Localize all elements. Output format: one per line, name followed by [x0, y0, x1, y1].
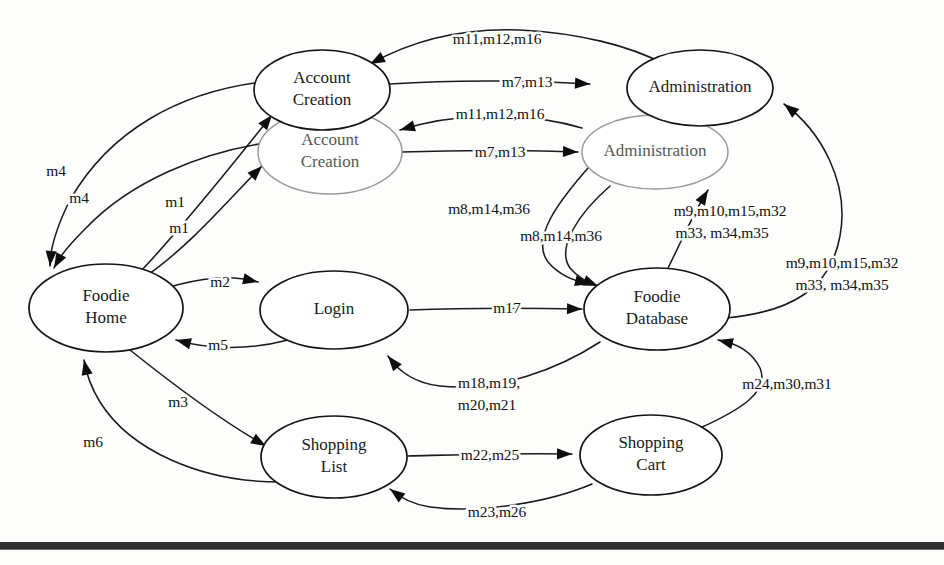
- bottom-rule: [0, 542, 944, 549]
- edge-label-e-ac-top-to-home-m4: m4: [46, 162, 66, 179]
- node-label-line1: Foodie: [82, 286, 129, 305]
- edge-e-list-to-home-m6: [84, 360, 280, 482]
- node-administration-top[interactable]: Administration: [627, 50, 773, 126]
- edge-label-e-home-to-ac-ghost-m1: m1: [169, 219, 189, 236]
- edge-label-e-list-to-cart-m22: m22,m25: [461, 446, 520, 463]
- arrowhead-e-admin-ghost-to-db-m8: [582, 275, 598, 286]
- node-label-line2: Creation: [301, 152, 360, 171]
- edge-label-e-home-to-ac-top-m1: m1: [165, 193, 185, 210]
- edge-label-e-login-to-home-m5: m5: [208, 336, 228, 353]
- edge-e-home-to-ac-ghost-m1: [146, 166, 262, 276]
- edge-label-e-admin-to-db-m8: m8,m14,m36: [448, 200, 530, 217]
- edge-label-e-ac-ghost-to-home-m4: m4: [69, 189, 89, 206]
- edge-label-e-db-to-login-m18-line2: m20,m21: [458, 396, 516, 413]
- node-label-line1: Administration: [649, 77, 752, 96]
- arrowhead-e-cart-to-list-m23: [390, 489, 405, 502]
- edge-label-e-ac-to-admin-top-return: m11,m12,m16: [453, 30, 542, 47]
- diagram-canvas: AccountCreationAdministrationAccountCrea…: [0, 0, 944, 565]
- edge-label-e-ac-ghost-to-admin-ghost: m7,m13: [475, 143, 526, 160]
- arrowhead-e-cart-to-db-m24: [718, 338, 734, 349]
- edge-label-e-list-to-home-m6: m6: [83, 433, 103, 450]
- node-label-line1: Login: [314, 299, 355, 318]
- edge-label-e-db-to-admin-ghost: m9,m10,m15,m32: [674, 202, 787, 219]
- edge-label-e-login-to-db-m17: m17: [493, 299, 521, 316]
- edge-label-e-db-to-admin-top: m9,m10,m15,m32: [786, 254, 899, 271]
- arrowhead-e-login-to-home-m5: [176, 338, 192, 349]
- arrowhead-e-ac-ghost-to-admin-ghost-return: [400, 120, 416, 131]
- arrowhead-e-list-to-cart-m22: [557, 448, 572, 459]
- arrowhead-e-ac-ghost-to-home-m4: [54, 252, 66, 268]
- node-account-creation-top[interactable]: AccountCreation: [254, 50, 390, 130]
- nodes-layer: AccountCreationAdministrationAccountCrea…: [29, 50, 773, 498]
- arrowhead-e-ac-to-admin-top: [575, 78, 590, 89]
- node-label-line2: Database: [626, 309, 688, 328]
- edge-label-e-admin-ghost-to-db-m8: m8,m14,m36: [520, 227, 602, 244]
- edge-label-e-db-to-login-m18: m18,m19,: [458, 374, 520, 391]
- node-label-line1: Shopping: [618, 433, 684, 452]
- edge-label-e-db-to-admin-ghost-line2: m33, m34,m35: [675, 224, 768, 241]
- edge-label-e-db-to-admin-top-line2: m33, m34,m35: [795, 276, 888, 293]
- arrowhead-e-list-to-home-m6: [82, 360, 93, 376]
- node-label-line2: List: [321, 457, 348, 476]
- node-shopping-list[interactable]: ShoppingList: [261, 416, 407, 498]
- arrowhead-e-ac-ghost-to-admin-ghost: [563, 146, 578, 157]
- node-label-line1: Administration: [604, 141, 707, 160]
- edge-e-login-to-home-m5: [176, 340, 288, 348]
- edge-label-e-home-to-list-m3: m3: [168, 393, 188, 410]
- node-shopping-cart[interactable]: ShoppingCart: [580, 415, 722, 495]
- arrowhead-e-home-to-login-m2: [242, 273, 258, 284]
- collaboration-graph: AccountCreationAdministrationAccountCrea…: [0, 0, 944, 565]
- edge-e-ac-top-to-home-m4: [50, 82, 262, 266]
- edge-label-e-cart-to-list-m23: m23,m26: [468, 503, 527, 520]
- node-login[interactable]: Login: [260, 271, 408, 349]
- node-label-line1: Account: [301, 130, 359, 149]
- edge-label-e-ac-ghost-to-admin-ghost-return: m11,m12,m16: [456, 105, 545, 122]
- arrowhead-e-login-to-db-m17: [567, 303, 582, 314]
- edge-e-home-to-list-m3: [130, 350, 266, 446]
- node-label-line1: Foodie: [633, 287, 680, 306]
- node-foodie-home[interactable]: FoodieHome: [29, 264, 183, 352]
- node-label-line2: Creation: [293, 90, 352, 109]
- edge-label-e-home-to-login-m2: m2: [210, 273, 230, 290]
- node-label-line1: Shopping: [301, 435, 367, 454]
- edge-e-home-to-ac-top-m1: [140, 115, 272, 272]
- arrowhead-e-db-to-admin-top: [784, 104, 799, 118]
- edge-label-e-ac-to-admin-top: m7,m13: [502, 73, 553, 90]
- edge-label-e-cart-to-db-m24: m24,m30,m31: [742, 375, 831, 392]
- node-label-line2: Home: [85, 308, 127, 327]
- edge-e-ac-to-admin-top: [390, 81, 590, 84]
- node-label-line2: Cart: [636, 455, 666, 474]
- node-label-line1: Account: [293, 68, 351, 87]
- node-foodie-database[interactable]: FoodieDatabase: [584, 268, 730, 350]
- edge-labels-layer: m11,m12,m16m11,m12,m16m7,m13m7,m13m11,m1…: [46, 30, 898, 520]
